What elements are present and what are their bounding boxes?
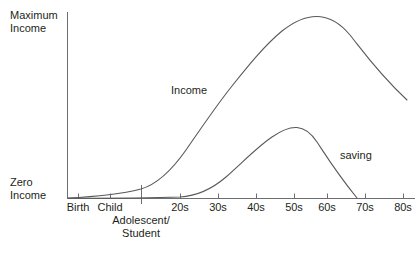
plot-area: [0, 0, 419, 258]
income-curve: [68, 16, 407, 198]
life-cycle-income-chart: Maximum Income Zero Income Income saving…: [0, 0, 419, 258]
saving-curve: [68, 127, 357, 198]
